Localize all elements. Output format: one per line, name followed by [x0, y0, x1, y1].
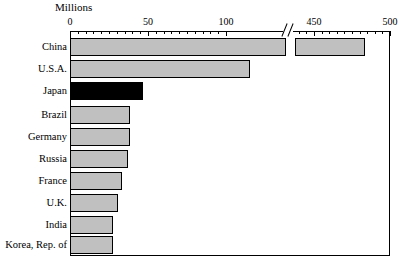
x-minor-tick: [344, 31, 345, 34]
x-minor-tick: [93, 31, 94, 34]
bar: [70, 236, 113, 254]
category-label: U.S.A.: [38, 63, 67, 75]
x-minor-tick: [164, 31, 165, 34]
x-minor-tick: [306, 31, 307, 34]
x-minor-tick: [179, 31, 180, 34]
category-label: U.K.: [47, 197, 67, 209]
x-minor-tick: [140, 31, 141, 34]
x-minor-tick: [203, 31, 204, 34]
x-minor-tick: [218, 31, 219, 34]
axis-break-icon: [281, 22, 295, 38]
category-label: Korea, Rep. of: [5, 239, 67, 251]
x-minor-tick: [337, 31, 338, 34]
category-label: Russia: [39, 153, 67, 165]
x-major-tick: [70, 31, 71, 36]
axis-unit-title: Millions: [55, 1, 92, 13]
x-minor-tick: [322, 31, 323, 34]
x-minor-tick: [117, 31, 118, 34]
x-tick-label: 100: [219, 16, 234, 27]
x-minor-tick: [86, 31, 87, 34]
x-minor-tick: [171, 31, 172, 34]
x-minor-tick: [329, 31, 330, 34]
x-minor-tick: [187, 31, 188, 34]
x-major-tick: [148, 31, 149, 36]
category-label: France: [38, 175, 67, 187]
x-tick-label: 50: [143, 16, 153, 27]
bar: [70, 194, 118, 212]
x-minor-tick: [156, 31, 157, 34]
bar: [70, 82, 143, 100]
bar: [70, 38, 286, 56]
bar: [70, 128, 130, 146]
category-label: Japan: [43, 85, 67, 97]
x-minor-tick: [210, 31, 211, 34]
x-minor-tick: [101, 31, 102, 34]
x-major-tick: [226, 31, 227, 36]
x-minor-tick: [382, 31, 383, 34]
bar: [70, 60, 250, 78]
x-tick-label: 0: [68, 16, 73, 27]
category-label: Brazil: [41, 109, 67, 121]
x-minor-tick: [367, 31, 368, 34]
bar: [70, 216, 113, 234]
category-label: India: [45, 219, 67, 231]
bar: [70, 106, 130, 124]
x-minor-tick: [125, 31, 126, 34]
x-minor-tick: [360, 31, 361, 34]
x-minor-tick: [299, 31, 300, 34]
bar: [70, 172, 122, 190]
bar-segment-after-break: [295, 38, 365, 56]
x-minor-tick: [375, 31, 376, 34]
x-major-tick: [314, 31, 315, 36]
category-label: Germany: [28, 131, 67, 143]
category-label: China: [42, 41, 67, 53]
x-tick-label: 500: [383, 16, 398, 27]
x-minor-tick: [132, 31, 133, 34]
x-tick-label: 450: [307, 16, 322, 27]
x-minor-tick: [109, 31, 110, 34]
bar: [70, 150, 128, 168]
x-minor-tick: [352, 31, 353, 34]
x-major-tick: [390, 31, 391, 36]
x-minor-tick: [195, 31, 196, 34]
x-minor-tick: [78, 31, 79, 34]
bar-chart: Millions 050100450500 ChinaU.S.A.JapanBr…: [0, 0, 403, 271]
